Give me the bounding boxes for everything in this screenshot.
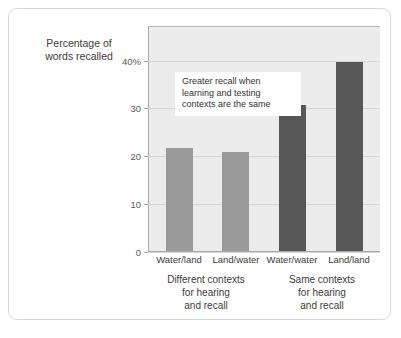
plot-area: 40% 30 20 10 0	[148, 26, 380, 252]
y-tick-label-0: 0	[136, 247, 141, 258]
bar-water-land[interactable]	[166, 148, 193, 251]
bar-land-water[interactable]	[222, 152, 249, 251]
bar-land-land[interactable]	[336, 62, 363, 251]
category-label-land-water: Land/water	[205, 254, 267, 265]
tick-mark-30	[144, 108, 148, 109]
group-label-same-contexts: Same contexts for hearing and recall	[264, 273, 380, 312]
group-left-line-3: and recall	[148, 299, 264, 312]
tick-mark-10	[144, 204, 148, 205]
plot-wrapper: 40% 30 20 10 0	[148, 26, 380, 252]
callout-line-3: contexts are the same	[182, 99, 295, 111]
group-right-line-3: and recall	[264, 299, 380, 312]
callout-line-2: learning and testing	[182, 88, 295, 100]
y-tick-label-30: 30	[130, 103, 141, 114]
group-left-line-1: Different contexts	[148, 273, 264, 286]
chart-card: Percentage of words recalled 40% 30 20 1…	[8, 8, 391, 320]
group-left-line-2: for hearing	[148, 286, 264, 299]
tick-mark-20	[144, 156, 148, 157]
group-label-different-contexts: Different contexts for hearing and recal…	[148, 273, 264, 312]
group-labels: Different contexts for hearing and recal…	[148, 273, 380, 319]
y-tick-label-20: 20	[130, 151, 141, 162]
category-label-water-land: Water/land	[148, 254, 210, 265]
category-label-land-land: Land/land	[318, 254, 380, 265]
bar-water-water[interactable]	[279, 105, 306, 251]
category-label-water-water: Water/water	[261, 254, 323, 265]
group-right-line-1: Same contexts	[264, 273, 380, 286]
gridline-0: 0	[148, 252, 380, 253]
callout-line-1: Greater recall when	[182, 76, 295, 88]
tick-mark-40	[144, 61, 148, 62]
y-tick-label-10: 10	[130, 199, 141, 210]
group-right-line-2: for hearing	[264, 286, 380, 299]
y-axis-title: Percentage of words recalled	[23, 37, 135, 63]
y-tick-label-40: 40%	[122, 55, 141, 66]
callout-annotation: Greater recall when learning and testing…	[175, 72, 301, 116]
y-axis-title-line-1: Percentage of	[23, 37, 135, 50]
y-axis-title-line-2: words recalled	[23, 50, 135, 63]
category-labels: Water/land Land/water Water/water Land/l…	[148, 254, 380, 268]
tick-mark-0	[144, 252, 148, 253]
